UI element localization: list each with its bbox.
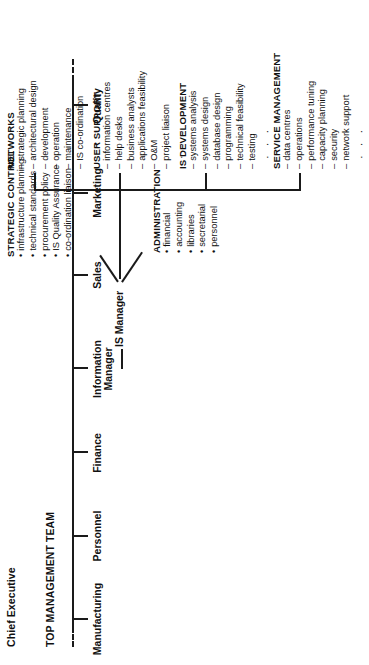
list-item: operations [294,53,306,169]
list-item: secretarial [197,169,209,253]
tmt-member-manufacturing[interactable]: Manufacturing [92,573,103,665]
branch-service-management [299,173,301,191]
list-item: development [40,80,52,169]
list-item: personnel [209,169,221,253]
list-item: O&M [149,71,161,169]
department-user-support-items: information centres help desks business … [102,71,172,169]
list-item: accounting [174,169,186,253]
department-networks: NETWORKS strategic planning architectura… [6,80,101,169]
list-item: operation [51,80,63,169]
tmt-bar-dash-left [72,627,74,647]
department-service-management-items: data centres operations performance tuni… [282,53,352,169]
department-user-support: USER SUPPORT information centres help de… [92,71,187,169]
tmt-bar-dash-right [72,59,74,81]
top-management-team-label: TOP MANAGEMENT TEAM [45,512,56,647]
department-user-support-title: USER SUPPORT [92,71,102,169]
branch-is-development [205,173,207,191]
tmt-member-sales[interactable]: Sales [92,247,103,303]
list-item: data centres [282,53,294,169]
list-item: programming [223,83,235,169]
department-is-development-title: IS DEVELOPMENT [178,83,188,169]
list-item: project liaison [161,71,173,169]
list-item: technical feasibility [235,83,247,169]
tmt-stem-personnel [72,535,88,537]
connector-ismanager-to-administration [121,252,142,283]
list-item: financial [162,169,174,253]
department-service-management: SERVICE MANAGEMENT data centres operatio… [272,53,367,169]
tmt-stem-finance [72,451,88,453]
list-item: security [329,53,341,169]
list-item: performance tuning [306,53,318,169]
list-item: maintenance [63,80,75,169]
department-is-development-items: systems analysis systems design database… [188,83,258,169]
tmt-stem-manufacturing [72,618,88,620]
department-service-management-ellipsis: · · · [356,53,368,159]
unit-administration: ADMINISTRATION financial accounting libr… [152,169,221,253]
connector-ismanager-trunk [119,191,121,279]
unit-administration-title: ADMINISTRATION [152,169,162,253]
list-item: systems analysis [188,83,200,169]
list-item: help desks [114,71,126,169]
tmt-member-personnel[interactable]: Personnel [92,497,103,575]
branch-user-support [119,173,121,191]
tmt-member-finance[interactable]: Finance [92,419,103,487]
org-chart-canvas: Chief Executive TOP MANAGEMENT TEAM Manu… [0,0,369,665]
list-item: capacity planning [317,53,329,169]
list-item: applications feasibility [137,71,149,169]
diagram-root: Chief Executive TOP MANAGEMENT TEAM Manu… [0,0,369,665]
list-item: testing [247,83,259,169]
list-item: IS co-ordination [75,80,87,169]
department-bracket-spine [34,189,300,191]
unit-administration-items: financial accounting libraries secretari… [162,169,221,253]
tmt-stem-sales [72,274,88,276]
list-item: architectural design [28,80,40,169]
list-item: database design [212,83,224,169]
tmt-member-information-manager[interactable]: Information Manager [92,325,115,413]
department-service-management-title: SERVICE MANAGEMENT [272,53,282,169]
is-manager-node[interactable]: IS Manager [114,291,125,347]
department-networks-items: strategic planning architectural design … [16,80,86,169]
list-item: systems design [200,83,212,169]
tmt-stem-information-manager [72,367,88,369]
connector-infomanager-to-ismanager [121,349,123,369]
chief-executive-title: Chief Executive [6,567,17,647]
branch-networks [34,173,36,191]
list-item: libraries [186,169,198,253]
list-item: strategic planning [16,80,28,169]
list-item: information centres [102,71,114,169]
department-networks-title: NETWORKS [6,80,16,169]
list-item: network support [341,53,353,169]
list-item: business analysts [126,71,138,169]
department-is-development: IS DEVELOPMENT systems analysis systems … [178,83,273,169]
